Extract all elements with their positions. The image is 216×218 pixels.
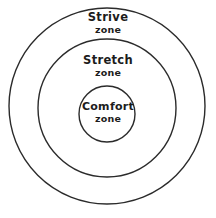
zone-title-comfort: Comfort bbox=[0, 101, 216, 113]
zone-title-strive: Strive bbox=[0, 11, 216, 24]
zone-label-stretch: Stretch zone bbox=[0, 54, 216, 79]
zone-title-stretch: Stretch bbox=[0, 54, 216, 67]
zone-subtitle-stretch: zone bbox=[0, 68, 216, 79]
zone-label-comfort: Comfort zone bbox=[0, 101, 216, 125]
zone-subtitle-strive: zone bbox=[0, 25, 216, 36]
comfort-zone-diagram: Strive zone Stretch zone Comfort zone bbox=[0, 0, 216, 218]
zone-subtitle-comfort: zone bbox=[0, 114, 216, 125]
zone-label-strive: Strive zone bbox=[0, 11, 216, 36]
